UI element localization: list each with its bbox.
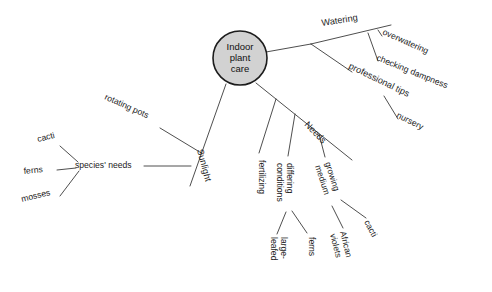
sub-label-fertilizing[interactable]: fertilizing (257, 160, 267, 194)
leaf-label-line: leafed (269, 237, 279, 261)
leaf-label-line: cacti (362, 218, 379, 238)
leaf-label-african-violets[interactable]: Africanviolets (328, 230, 354, 261)
sub-label-text: growingmedium (313, 161, 342, 196)
mindmap-edge (266, 44, 311, 52)
mindmap-edge (57, 168, 76, 170)
leaf-label-mosses-species[interactable]: mosses (20, 187, 51, 204)
sub-label-nursery[interactable]: nursery (395, 110, 426, 132)
sub-label-text: differingconditions (275, 163, 295, 202)
leaf-label-text: large-leafed (269, 237, 289, 261)
leaf-label-large-leafed[interactable]: large-leafed (269, 237, 289, 261)
leaf-label-cacti-species[interactable]: cacti (36, 130, 56, 144)
sub-label-growing-medium[interactable]: growingmedium (313, 161, 342, 196)
sub-label-rotating-pots[interactable]: rotating pots (103, 92, 150, 120)
mindmap-edge (311, 44, 352, 72)
sub-label-line: conditions (275, 163, 285, 202)
branch-label-sunlight[interactable]: Sunlight (195, 148, 213, 183)
leaf-label-line: ferns (307, 237, 317, 256)
sub-label-overwatering[interactable]: overwatering (381, 27, 430, 56)
leaf-label-text: ferns (23, 164, 43, 176)
sub-label-line: overwatering (381, 27, 430, 56)
root-label-line: plant (230, 52, 251, 63)
root-node-group[interactable]: Indoorplantcare (213, 31, 267, 85)
leaf-label-ferns-species[interactable]: ferns (23, 164, 43, 176)
mindmap-canvas: Indoorplantcare Wateringoverwateringchec… (0, 0, 492, 292)
leaf-label-text: mosses (20, 187, 51, 204)
branch-label-line: Sunlight (195, 148, 213, 183)
branch-label-line: Watering (321, 12, 359, 28)
mindmap-edge (60, 171, 79, 196)
branch-label-text: Watering (321, 12, 359, 28)
sub-label-text: rotating pots (103, 92, 150, 120)
mindmap-edge (332, 206, 343, 228)
sub-label-text: nursery (395, 110, 426, 132)
sub-label-species-needs[interactable]: species' needs (75, 160, 132, 170)
sub-label-text: species' needs (75, 160, 132, 170)
leaf-label-text: cacti (36, 130, 56, 144)
mindmap-edge (256, 83, 352, 160)
mindmap-edge (341, 200, 366, 218)
leaf-label-ferns-conditions[interactable]: ferns (307, 237, 317, 256)
root-label-line: Indoor (227, 41, 254, 52)
leaf-label-line: mosses (20, 187, 51, 204)
branch-label-text: Needs (303, 119, 329, 145)
sub-label-text: overwatering (381, 27, 430, 56)
leaf-label-text: Africanviolets (328, 230, 354, 261)
branch-label-watering[interactable]: Watering (321, 12, 359, 28)
branch-labels-layer: Wateringoverwateringchecking dampnesspro… (75, 12, 449, 201)
sub-label-differing-conditions[interactable]: differingconditions (275, 163, 295, 202)
mindmap-svg: Indoorplantcare Wateringoverwateringchec… (0, 0, 492, 292)
sub-label-line: rotating pots (103, 92, 150, 120)
branch-label-text: Sunlight (195, 148, 213, 183)
mindmap-edge (259, 99, 276, 153)
sub-label-line: nursery (395, 110, 426, 132)
leaf-label-line: large- (279, 237, 289, 259)
root-label-line: care (231, 63, 249, 74)
mindmap-edge (277, 212, 286, 234)
leaf-label-text: ferns (307, 237, 317, 256)
mindmap-edge (292, 211, 307, 233)
branch-label-line: Needs (303, 119, 329, 145)
sub-label-line: species' needs (75, 160, 132, 170)
leaf-label-line: cacti (36, 130, 56, 144)
leaf-label-text: cacti (362, 218, 379, 238)
leaf-label-line: ferns (23, 164, 43, 176)
sub-label-line: fertilizing (257, 160, 267, 194)
sub-label-line: differing (285, 163, 295, 194)
leaf-label-cacti-medium[interactable]: cacti (362, 218, 379, 238)
sub-label-text: fertilizing (257, 160, 267, 194)
branch-label-needs[interactable]: Needs (303, 119, 329, 145)
mindmap-edge (288, 114, 295, 156)
